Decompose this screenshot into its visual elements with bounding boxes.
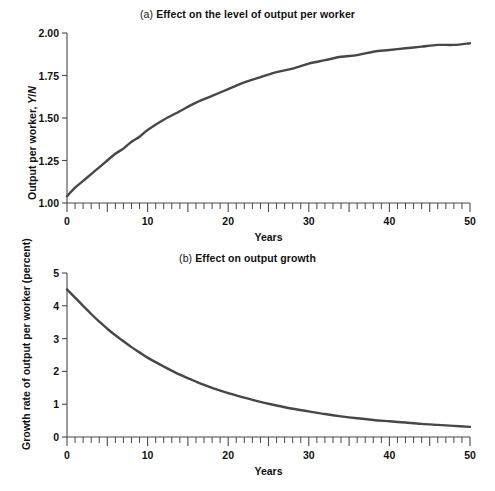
panel-b-x-axis-title: Years bbox=[254, 465, 282, 477]
panel-a-y-tick-label: 2.00 bbox=[23, 27, 59, 39]
panel-b-plot-area bbox=[0, 245, 495, 491]
panel-b-x-tick-label: 30 bbox=[303, 449, 315, 461]
panel-a-axes bbox=[67, 33, 470, 203]
panel-a-y-axis-symbol-N: N bbox=[26, 86, 38, 94]
panel-b-x-tick-label: 10 bbox=[142, 449, 154, 461]
panel-b-y-axis-title: Growth rate of output per worker (percen… bbox=[20, 238, 32, 450]
panel-b-x-tick-label: 50 bbox=[464, 449, 476, 461]
panel-a-x-tick-label: 40 bbox=[384, 215, 396, 227]
panel-b-curve bbox=[67, 289, 470, 426]
panel-a-y-tick-label: 1.75 bbox=[23, 70, 59, 82]
figure-container: (a) Effect on the level of output per wo… bbox=[0, 0, 495, 491]
panel-a-x-tick-label: 30 bbox=[303, 215, 315, 227]
panel-b-x-tick-label: 20 bbox=[222, 449, 234, 461]
panel-a-y-axis-symbol-Y: Y bbox=[26, 97, 38, 104]
panel-a-x-tick-label: 20 bbox=[222, 215, 234, 227]
panel-a-y-axis-slash: / bbox=[26, 94, 38, 97]
panel-a-plot-area bbox=[0, 0, 495, 245]
panel-a-y-axis-title-prefix: Output per worker, bbox=[26, 104, 38, 200]
panel-b-x-tick-label: 0 bbox=[64, 449, 70, 461]
panel-a-y-axis-title: Output per worker, Y/N bbox=[26, 86, 38, 200]
panel-a-x-axis-title: Years bbox=[254, 231, 282, 243]
panel-b-axes bbox=[67, 273, 470, 437]
chart-panel-a: (a) Effect on the level of output per wo… bbox=[0, 0, 495, 245]
panel-b-x-tick-label: 40 bbox=[384, 449, 396, 461]
panel-a-ticks bbox=[62, 33, 470, 212]
panel-a-x-tick-label: 50 bbox=[464, 215, 476, 227]
panel-a-x-tick-label: 10 bbox=[142, 215, 154, 227]
panel-a-curve bbox=[67, 43, 470, 196]
panel-a-x-tick-label: 0 bbox=[64, 215, 70, 227]
chart-panel-b: (b) Effect on output growth 012345 01020… bbox=[0, 245, 495, 491]
panel-b-ticks bbox=[62, 273, 470, 446]
